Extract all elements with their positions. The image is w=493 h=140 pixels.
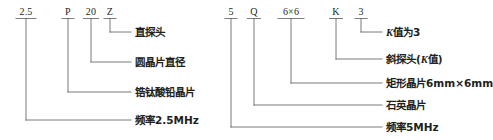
callout-label-frequency-2p5mhz: 频率2.5MHz (135, 114, 199, 126)
code-token-right-0: 5 (228, 6, 233, 17)
code-token-right-3: K (332, 6, 339, 17)
callout-label-k-value-is-3: K值为3 (386, 26, 420, 39)
callout-label-rest: 值为3 (393, 26, 420, 38)
code-token-left-3: Z (107, 6, 113, 17)
callout-label-suffix: 值) (428, 53, 443, 65)
code-token-left-2: 20 (86, 6, 96, 17)
code-token-left-0: 2.5 (19, 6, 32, 17)
callout-label-angle-probe-k-value: 斜探头(K值) (386, 53, 443, 66)
callout-label-quartz-wafer: 石英晶片 (386, 99, 426, 111)
callout-label-round-wafer-diameter: 圆晶片直径 (135, 56, 185, 68)
italic-k-symbol: K (421, 54, 428, 65)
code-token-left-1: P (65, 6, 71, 17)
callout-label-prefix: 斜探头( (386, 53, 421, 65)
callout-label-frequency-5mhz: 频率5MHz (386, 121, 439, 133)
code-token-right-1: Q (250, 6, 257, 17)
callout-label-lead-zirconate-titanate-wafer: 锆钛酸铅晶片 (135, 86, 195, 98)
italic-k-symbol: K (386, 27, 393, 38)
callout-label-rectangular-wafer-6mm: 矩形晶片6mm×6mm (386, 77, 493, 89)
code-token-right-2: 6×6 (283, 6, 299, 17)
code-token-right-4: 3 (358, 6, 363, 17)
callout-label-straight-probe: 直探头 (135, 26, 165, 38)
